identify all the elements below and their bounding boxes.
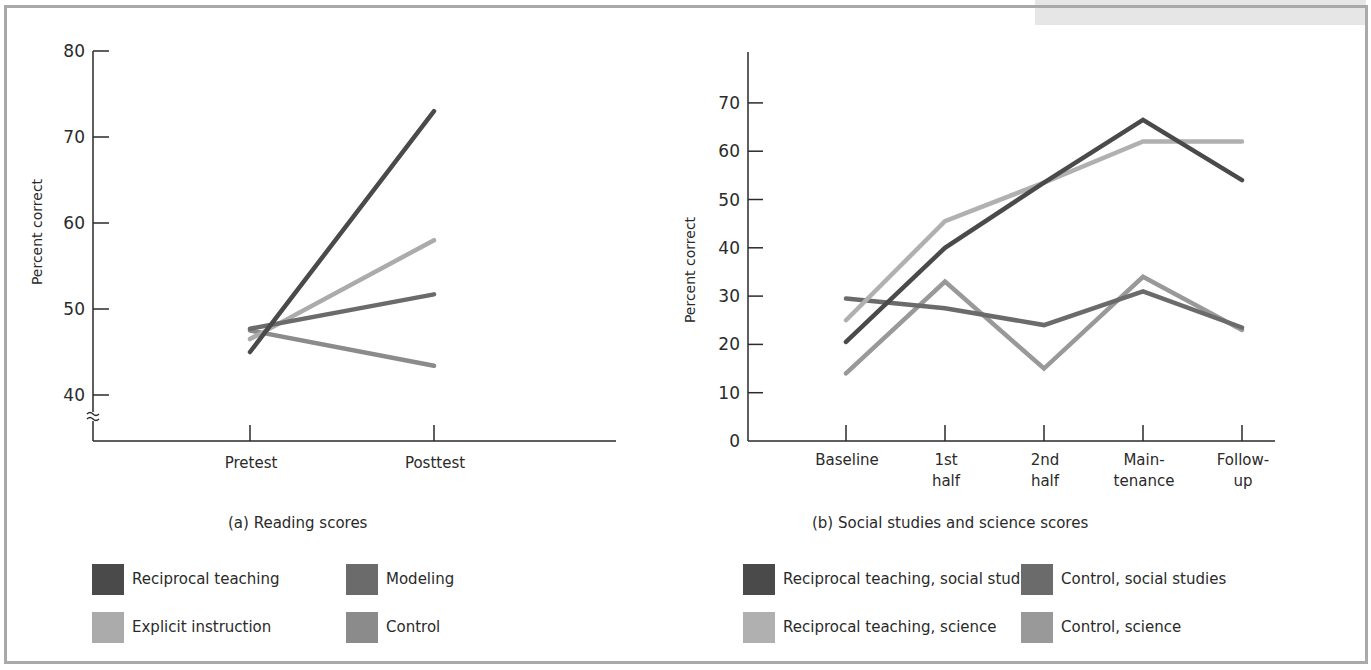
legend-b-control-sci: Control, science <box>1021 611 1181 643</box>
x-tick-label: tenance <box>1114 472 1175 490</box>
legend-label: Reciprocal teaching <box>132 570 280 588</box>
legend-label: Explicit instruction <box>132 618 271 636</box>
x-tick-label: half <box>932 472 961 490</box>
chart-b-lines <box>846 120 1242 374</box>
legend-b-control-ss: Control, social studies <box>1021 563 1226 595</box>
y-tick-label: 50 <box>718 190 740 210</box>
y-tick-label: 10 <box>718 383 740 403</box>
y-tick-label: 0 <box>729 431 740 451</box>
legend-a-reciprocal: Reciprocal teaching <box>92 563 280 595</box>
legend-a-explicit: Explicit instruction <box>92 611 271 643</box>
swatch-explicit <box>92 612 124 643</box>
chart-b-axes <box>748 52 1275 441</box>
y-tick-label: 60 <box>718 141 740 161</box>
legend-label: Reciprocal teaching, social studies <box>783 570 1042 588</box>
legend-label: Modeling <box>386 570 454 588</box>
legend-a-modeling: Modeling <box>346 563 454 595</box>
legend-b-recip-ss: Reciprocal teaching, social studies <box>743 563 1042 595</box>
swatch-control-ss <box>1021 564 1053 595</box>
legend-b-recip-sci: Reciprocal teaching, science <box>743 611 997 643</box>
series-line <box>846 142 1242 321</box>
y-tick-label: 40 <box>718 238 740 258</box>
x-tick-label: 1st <box>934 451 957 469</box>
y-tick-label: 20 <box>718 334 740 354</box>
chart-b-labels: 010203040506070Baseline1sthalf2ndhalfMai… <box>682 93 1269 490</box>
swatch-recip-ss <box>743 564 775 595</box>
swatch-control-sci <box>1021 612 1053 643</box>
x-tick-label: Main- <box>1123 451 1164 469</box>
legend-label: Control <box>386 618 440 636</box>
x-tick-label: Follow- <box>1217 451 1269 469</box>
legend-label: Control, social studies <box>1061 570 1226 588</box>
swatch-reciprocal <box>92 564 124 595</box>
x-tick-label: 2nd <box>1031 451 1060 469</box>
legend-label: Reciprocal teaching, science <box>783 618 997 636</box>
legend-a-control: Control <box>346 611 440 643</box>
swatch-modeling <box>346 564 378 595</box>
series-line <box>846 120 1242 342</box>
y-tick-label: 70 <box>718 93 740 113</box>
y-tick-label: 30 <box>718 286 740 306</box>
caption-a: (a) Reading scores <box>228 514 367 532</box>
swatch-recip-sci <box>743 612 775 643</box>
x-tick-label: half <box>1031 472 1060 490</box>
x-tick-label: Baseline <box>815 451 879 469</box>
caption-b: (b) Social studies and science scores <box>812 514 1088 532</box>
swatch-control <box>346 612 378 643</box>
x-tick-label: up <box>1233 472 1252 490</box>
y-axis-title: Percent correct <box>682 216 698 323</box>
social-science-scores-chart: 010203040506070Baseline1sthalf2ndhalfMai… <box>0 0 1371 500</box>
legend-label: Control, science <box>1061 618 1181 636</box>
